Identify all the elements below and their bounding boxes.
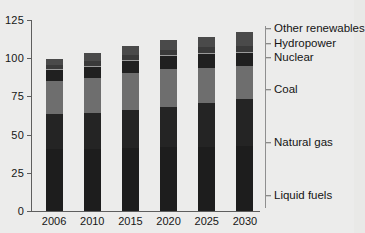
legend-item-liquid-fuels[interactable]: Liquid fuels <box>266 190 332 202</box>
y-tick-label-0: 0 <box>18 205 24 217</box>
x-tick-label-2025: 2025 <box>195 215 219 227</box>
x-tick-label-2010: 2010 <box>80 215 104 227</box>
y-tick-label-125: 125 <box>5 14 24 26</box>
x-tick-label-2030: 2030 <box>233 215 257 227</box>
bar-segment-liquid-fuels <box>84 149 101 211</box>
plot-area: 125 100 75 50 25 0 200620102015202020252… <box>31 20 260 211</box>
bar-segment-liquid-fuels <box>122 148 139 211</box>
legend-tick-icon <box>266 90 271 91</box>
bar-segment-nuclear <box>236 53 253 66</box>
bar-segment-nuclear <box>160 56 177 69</box>
bar-segment-coal <box>198 68 215 103</box>
bar-segment-natural-gas <box>236 98 253 146</box>
bar-segment-nuclear <box>46 70 63 81</box>
bar-segment-natural-gas <box>46 113 63 149</box>
legend-tick-icon <box>266 143 271 144</box>
bar-segment-coal <box>122 73 139 110</box>
bar-segment-nuclear <box>198 54 215 67</box>
legend-item-hydropower[interactable]: Hydropower <box>266 38 336 50</box>
y-axis-line <box>31 20 32 211</box>
bar-segment-natural-gas <box>84 112 101 149</box>
bar-segment-coal <box>46 81 63 114</box>
x-axis-line <box>31 211 260 212</box>
y-tick-label-50: 50 <box>11 129 24 141</box>
legend-item-coal[interactable]: Coal <box>266 84 298 96</box>
legend-tick-icon <box>266 44 271 45</box>
bar-segment-other-renewables <box>160 40 177 49</box>
legend-tick-icon <box>266 29 271 30</box>
bar-segment-other-renewables <box>46 59 63 65</box>
bar-segment-nuclear <box>122 61 139 73</box>
legend-item-other-renewables[interactable]: Other renewables <box>266 23 365 35</box>
legend-label: Coal <box>274 84 298 96</box>
legend-label: Hydropower <box>274 38 336 50</box>
legend-label: Natural gas <box>274 137 333 149</box>
bar-segment-coal <box>236 66 253 99</box>
legend-label: Other renewables <box>274 23 365 35</box>
bar-segment-nuclear <box>84 67 101 78</box>
bar-segment-coal <box>84 78 101 113</box>
legend-label: Liquid fuels <box>274 190 332 202</box>
bar-segment-liquid-fuels <box>198 147 215 211</box>
legend-tick-icon <box>266 58 271 59</box>
y-tick-label-100: 100 <box>5 52 24 64</box>
x-tick-label-2020: 2020 <box>156 215 180 227</box>
bar-segment-natural-gas <box>160 106 177 148</box>
y-tick-label-75: 75 <box>11 90 24 102</box>
bar-segment-liquid-fuels <box>160 147 177 211</box>
legend-tick-icon <box>266 196 271 197</box>
bar-segment-liquid-fuels <box>46 149 63 211</box>
bar-segment-other-renewables <box>122 46 139 55</box>
bar-segment-other-renewables <box>198 37 215 47</box>
legend-item-nuclear[interactable]: Nuclear <box>266 52 314 64</box>
bar-segment-coal <box>160 69 177 106</box>
y-tick-label-25: 25 <box>11 167 24 179</box>
bar-segment-liquid-fuels <box>236 146 253 211</box>
bar-segment-natural-gas <box>198 102 215 147</box>
bar-segment-other-renewables <box>84 53 101 61</box>
x-tick-label-2006: 2006 <box>42 215 66 227</box>
bar-segment-natural-gas <box>122 109 139 148</box>
legend-label: Nuclear <box>274 52 314 64</box>
legend-item-natural-gas[interactable]: Natural gas <box>266 137 333 149</box>
x-tick-label-2015: 2015 <box>118 215 142 227</box>
bar-segment-other-renewables <box>236 32 253 46</box>
